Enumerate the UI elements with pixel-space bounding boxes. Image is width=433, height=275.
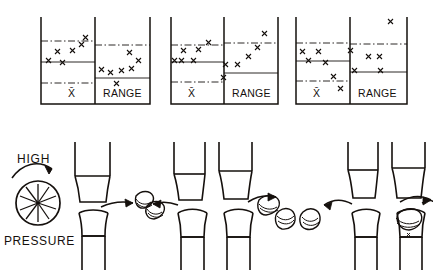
diagram-svg: X̄ RANGE X̄ [0, 0, 433, 275]
panel-2-range-label: RANGE [232, 87, 271, 99]
figure-canvas: X̄ RANGE X̄ [0, 0, 433, 275]
panel-1-range-label: RANGE [103, 87, 142, 99]
panel-3-xbar-label: X̄ [313, 87, 320, 99]
panel-2-xbar-label: X̄ [188, 87, 195, 99]
pressure-label: PRESSURE [4, 234, 75, 248]
panel-1-xbar-label: X̄ [68, 87, 75, 99]
panel-3-range-label: RANGE [358, 87, 397, 99]
